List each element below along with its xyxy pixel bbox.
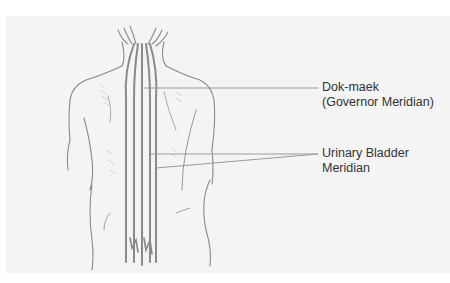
governor-label-line1: Dok-maek [322, 80, 434, 95]
leader-lines [144, 88, 318, 168]
governor-meridian-label: Dok-maek (Governor Meridian) [322, 80, 434, 110]
torso-illustration [0, 0, 450, 283]
ub-label-line2: Meridian [322, 161, 409, 176]
governor-label-line2: (Governor Meridian) [322, 95, 434, 110]
ub-leader-lower [156, 154, 318, 168]
ub-label-line1: Urinary Bladder [322, 146, 409, 161]
urinary-bladder-meridian-label: Urinary Bladder Meridian [322, 146, 409, 176]
